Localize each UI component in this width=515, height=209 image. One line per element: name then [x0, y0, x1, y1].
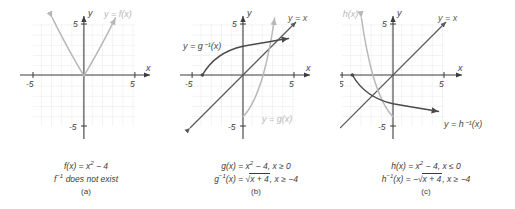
caption-a-line-1: f(x) = x2 − 4	[0, 160, 172, 173]
panel-c: x y -5 5 5 -5 y = h(x) y = x y = h⁻¹(x) …	[340, 0, 512, 209]
caption-a: f(x) = x2 − 4 f−1 does not exist (a)	[0, 160, 172, 199]
inverse-function-figure: x y -5 5 5 -5 y = f(x) f(x) = x2 − 4 f−1…	[0, 0, 515, 209]
caption-b: g(x) = x2 − 4, x ≥ 0 g−1(x) = √x + 4, x …	[170, 160, 342, 199]
x-axis-label: x	[457, 63, 463, 73]
caption-c-line-1: h(x) = x2 − 4, x ≤ 0	[340, 160, 512, 173]
panel-a-tag: (a)	[0, 185, 172, 199]
caption-a-line-2: f−1 does not exist	[0, 173, 172, 186]
x-tick-label-neg5: -5	[26, 79, 34, 89]
panel-b: x y -5 5 5 -5 y = x y = g⁻¹(x) y = g(x) …	[170, 0, 342, 209]
y-axis-label: y	[396, 8, 402, 18]
caption-c-line-2: h−1(x) = −√x + 4, x ≥ −4	[340, 173, 512, 186]
y-axis-label: y	[246, 8, 252, 18]
y-tick-label-pos5: 5	[232, 19, 237, 29]
x-tick-label-pos5: 5	[439, 79, 444, 89]
y-tick-label-neg5: -5	[378, 122, 386, 132]
y-tick-label-neg5: -5	[69, 122, 77, 132]
panel-a-plot: x y -5 5 5 -5 y = f(x)	[0, 4, 172, 159]
endpoint-dot-g-inverse	[201, 73, 205, 77]
x-tick-label-neg5: -5	[185, 79, 193, 89]
y-tick-label-pos5: 5	[382, 19, 387, 29]
panel-b-plot: x y -5 5 5 -5 y = x y = g⁻¹(x) y = g(x)	[170, 4, 342, 159]
function-label: y = f(x)	[103, 9, 132, 19]
caption-c: h(x) = x2 − 4, x ≤ 0 h−1(x) = −√x + 4, x…	[340, 160, 512, 199]
x-tick-label-neg5: -5	[340, 79, 344, 89]
inverse-label: y = h⁻¹(x)	[443, 119, 482, 129]
panel-c-tag: (c)	[340, 185, 512, 199]
identity-label: y = x	[287, 13, 308, 23]
y-tick-label-pos5: 5	[73, 19, 78, 29]
x-tick-label-pos5: 5	[130, 79, 135, 89]
y-axis-label: y	[87, 8, 93, 18]
identity-label: y = x	[437, 13, 458, 23]
inverse-label: y = g⁻¹(x)	[182, 41, 221, 51]
caption-b-line-2: g−1(x) = √x + 4, x ≥ −4	[170, 173, 342, 186]
function-label: y = h(x)	[340, 9, 358, 19]
caption-b-line-1: g(x) = x2 − 4, x ≥ 0	[170, 160, 342, 173]
panel-a: x y -5 5 5 -5 y = f(x) f(x) = x2 − 4 f−1…	[0, 0, 172, 209]
x-axis-label: x	[305, 63, 311, 73]
endpoint-dot-h-inverse	[351, 73, 355, 77]
function-label: y = g(x)	[261, 114, 292, 124]
x-tick-label-pos5: 5	[289, 79, 294, 89]
x-axis-label: x	[145, 63, 151, 73]
y-tick-label-neg5: -5	[228, 122, 236, 132]
panel-c-plot: x y -5 5 5 -5 y = h(x) y = x y = h⁻¹(x)	[340, 4, 512, 159]
panel-b-tag: (b)	[170, 185, 342, 199]
